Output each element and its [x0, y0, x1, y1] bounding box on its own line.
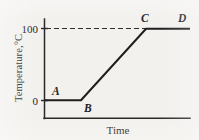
point-label-c: C [141, 12, 149, 24]
y-tick-label-0: 0 [33, 95, 39, 107]
y-axis-title: Temperature,°C [13, 34, 24, 102]
temperature-vs-time-chart: 100 0 A B C D Time Temperature,°C [0, 0, 199, 140]
point-label-b: B [83, 102, 92, 114]
x-axis-title: Time [107, 124, 130, 136]
chart-svg: 100 0 A B C D Time Temperature,°C [0, 0, 199, 140]
point-label-d: D [177, 12, 187, 24]
y-tick-label-100: 100 [22, 23, 39, 35]
chart-background [0, 0, 199, 140]
point-label-a: A [51, 85, 60, 97]
